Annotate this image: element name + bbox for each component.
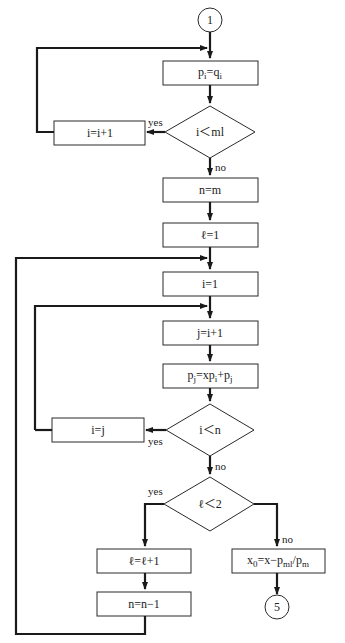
n-eq-m-label: n=m <box>199 184 221 196</box>
l-eq-1-label: ℓ=1 <box>201 229 220 241</box>
start-connector-label: 1 <box>207 14 213 26</box>
q-sub: i <box>219 71 222 81</box>
x0-b-sub: ml <box>283 559 293 569</box>
i-eq-1-label: i=1 <box>202 278 218 290</box>
i-eq-j-label: i=j <box>91 424 104 436</box>
edge-label-yes-2: yes <box>148 436 163 447</box>
pj-b: =xp <box>196 368 215 382</box>
x0-b: =x−p <box>258 553 284 567</box>
cond-l-2-label: ℓ＜2 <box>198 498 222 510</box>
l-inc-label: ℓ=ℓ+1 <box>128 555 159 567</box>
arrow-cond3-yes <box>145 504 164 546</box>
outer-loop-return <box>16 616 145 634</box>
pj-c-sub: j <box>230 374 233 384</box>
edge-label-no-1: no <box>215 162 226 173</box>
pj-update-label: pj=xpi+pj <box>187 369 232 384</box>
edge-label-yes-3: yes <box>148 486 163 497</box>
inc-i-label: i=i+1 <box>87 127 113 139</box>
pj-c: +p <box>217 368 230 382</box>
assign-p-label: pi=qi <box>198 66 222 81</box>
n-dec-label: n=n−1 <box>128 598 160 610</box>
cond-i-ml-label: i＜ml <box>196 126 224 138</box>
edge-label-yes-1: yes <box>148 117 163 128</box>
flowchart-canvas <box>0 0 345 643</box>
j-eq-i1-label: j=i+1 <box>197 327 223 339</box>
x0-c: /p <box>293 553 302 567</box>
arrow-cond3-no <box>254 504 277 546</box>
x0-calc-label: x0=x−pml/pm <box>247 554 309 569</box>
edge-label-no-2: no <box>215 461 226 472</box>
x0-c-sub: m <box>302 559 309 569</box>
q-part: =q <box>207 65 220 79</box>
cond-i-n-label: i＜n <box>199 424 220 436</box>
edge-label-no-3: no <box>282 534 293 545</box>
end-connector-label: 5 <box>274 601 280 613</box>
